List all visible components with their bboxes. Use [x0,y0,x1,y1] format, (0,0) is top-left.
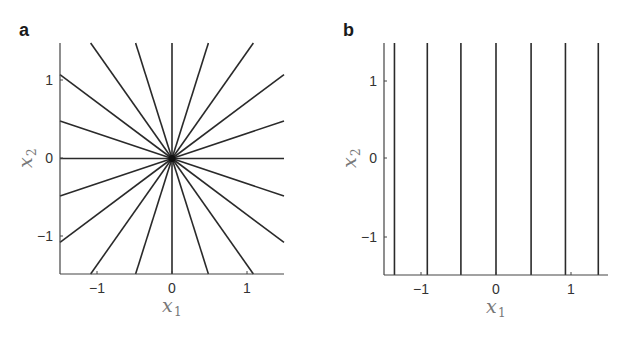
panel-b: b −1 0 1 1 0 −1 x 1 x 2 [338,20,608,320]
data-line [172,159,284,197]
xtick-b-1: 1 [567,281,575,297]
xtick-a-1: 1 [243,280,251,296]
ylabel-b: x 2 [338,148,363,168]
data-line [136,159,172,275]
svg-text:x: x [486,295,497,317]
svg-text:2: 2 [349,148,363,156]
xlabel-a: x 1 [162,294,182,319]
data-line [172,43,208,159]
data-line [91,159,172,275]
svg-text:1: 1 [498,306,506,320]
data-line [60,75,172,159]
svg-text:1: 1 [174,305,182,319]
xtick-b-neg1: −1 [413,281,429,297]
data-line [172,159,284,243]
ytick-b-neg1: −1 [361,229,377,245]
data-line [172,159,208,275]
vertical-lines [394,43,598,275]
origin-burst [169,155,176,162]
panel-a: a −1 0 1 1 0 −1 x 1 x 2 [14,20,284,319]
data-line [172,43,253,159]
ytick-b-0: 0 [369,150,377,166]
figure: a −1 0 1 1 0 −1 x 1 x 2 b [0,0,632,337]
svg-text:x: x [338,157,360,168]
xtick-a-neg1: −1 [89,280,105,296]
xlabel-b: x 1 [486,295,506,320]
data-line [172,159,253,275]
data-line [60,121,172,159]
svg-text:x: x [14,157,36,168]
ytick-a-0: 0 [45,150,53,166]
svg-text:2: 2 [25,148,39,156]
data-line [172,75,284,159]
data-line [60,159,172,197]
data-line [172,121,284,159]
data-line [136,43,172,159]
data-line [91,43,172,159]
panel-label-a: a [19,20,30,40]
ytick-b-1: 1 [369,73,377,89]
svg-text:x: x [162,294,173,316]
ytick-a-1: 1 [45,72,53,88]
ylabel-a: x 2 [14,148,39,168]
data-line [60,159,172,243]
ytick-a-neg1: −1 [37,228,53,244]
panel-label-b: b [343,20,354,40]
radial-lines [60,43,284,274]
